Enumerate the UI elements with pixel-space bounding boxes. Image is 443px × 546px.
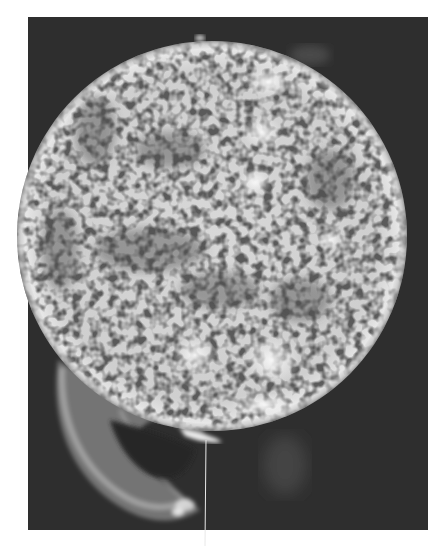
- limb-glow: [263, 435, 307, 495]
- top-prominence: [195, 35, 205, 41]
- solar-photograph: [0, 0, 443, 546]
- photo-canvas: [0, 0, 443, 546]
